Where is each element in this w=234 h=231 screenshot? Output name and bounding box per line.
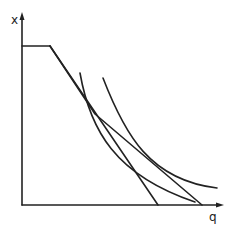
indifference-curve-inner	[80, 73, 195, 202]
y-axis-label: x	[11, 13, 18, 27]
indifference-curve-outer	[103, 78, 217, 188]
x-axis-arrow-icon	[216, 203, 224, 208]
y-axis-arrow-icon	[20, 12, 25, 20]
kinked-budget-line	[50, 46, 202, 205]
diagram-canvas: x q	[0, 0, 234, 231]
x-axis-label: q	[209, 210, 217, 224]
